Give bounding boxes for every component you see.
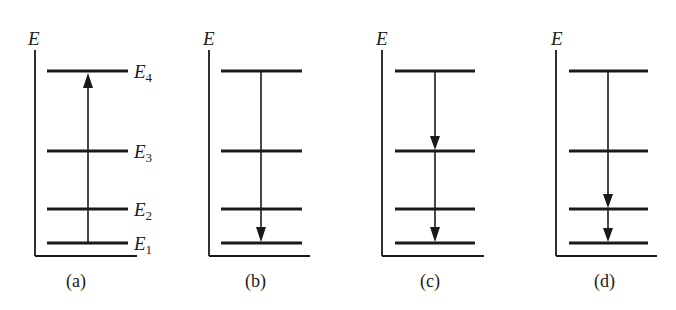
- label-e1: E1: [133, 233, 152, 257]
- caption-b: (b): [245, 271, 266, 292]
- axis-label: E: [27, 28, 40, 49]
- axis-label: E: [375, 28, 388, 49]
- arrowhead-down-icon: [603, 228, 613, 242]
- caption-d: (d): [594, 271, 615, 292]
- panel-b: E (b): [202, 28, 310, 292]
- panel-d: E (d): [550, 28, 657, 292]
- arrowhead-down-icon: [430, 227, 440, 242]
- panel-a: E E4 E3 E2 E1 (a): [27, 28, 153, 292]
- arrowhead-up-icon: [83, 73, 93, 88]
- arrowhead-down-icon: [256, 227, 266, 242]
- caption-a: (a): [66, 271, 86, 292]
- label-e3: E3: [133, 141, 152, 165]
- arrowhead-down-icon: [603, 194, 613, 208]
- caption-c: (c): [420, 271, 440, 292]
- panel-c: E (c): [375, 28, 484, 292]
- energy-level-figure: E E4 E3 E2 E1 (a) E (b) E: [0, 0, 676, 310]
- label-e2: E2: [133, 199, 152, 223]
- axis-label: E: [550, 28, 563, 49]
- axis-label: E: [202, 28, 215, 49]
- arrowhead-down-icon: [430, 136, 440, 150]
- label-e4: E4: [133, 61, 153, 85]
